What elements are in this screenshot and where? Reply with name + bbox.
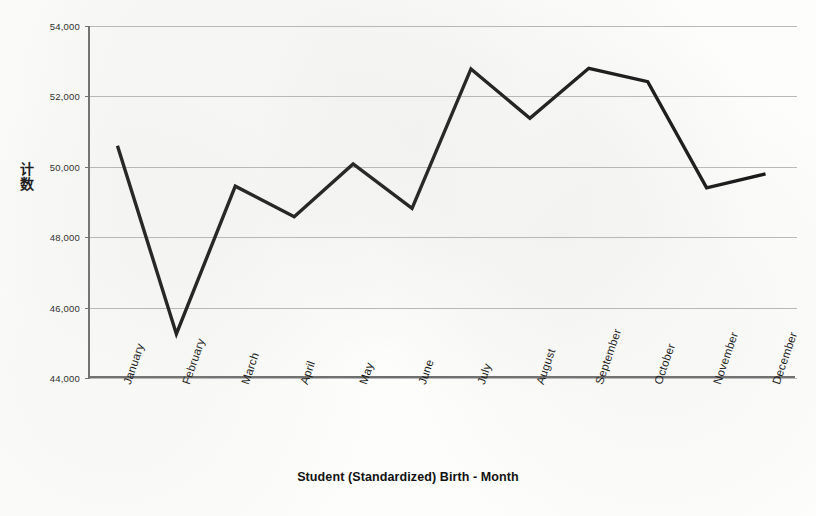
y-axis-tick-label: 48,000: [50, 232, 80, 243]
y-axis-tick-label: 54,000: [50, 21, 80, 32]
line-chart: 计数 44,00046,00048,00050,00052,00054,000 …: [0, 0, 816, 516]
y-axis-tick-mark: [85, 378, 90, 379]
y-axis-tick-label: 46,000: [50, 302, 80, 313]
x-axis-title: Student (Standardized) Birth - Month: [0, 470, 816, 484]
y-axis-tick-label: 44,000: [50, 373, 80, 384]
y-axis-title: 计数: [18, 162, 33, 192]
gridline: [90, 378, 797, 379]
data-line-count: [117, 68, 765, 334]
x-axis-tick-labels: JanuaryFebruaryMarchAprilMayJuneJulyAugu…: [88, 382, 795, 466]
y-axis-tick-label: 50,000: [50, 161, 80, 172]
data-series-layer: [88, 26, 795, 378]
y-axis-tick-label: 52,000: [50, 91, 80, 102]
